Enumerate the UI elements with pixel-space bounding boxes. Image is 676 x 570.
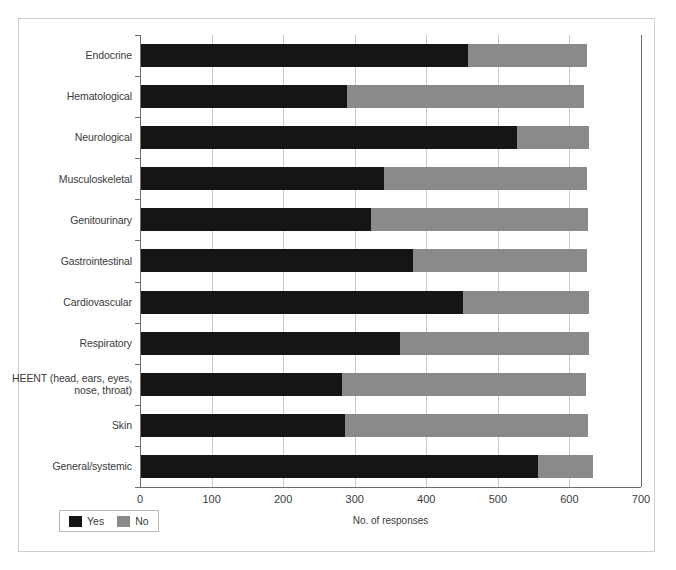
chart-row: Endocrine (140, 35, 641, 76)
bar-segment-yes[interactable] (140, 249, 413, 272)
bar-segment-no[interactable] (463, 291, 590, 314)
chart-row: Respiratory (140, 323, 641, 364)
x-tick-label-0: 0 (137, 493, 143, 505)
chart-row: Hematological (140, 76, 641, 117)
chart-row: General/systemic (140, 446, 641, 487)
legend-item-no[interactable]: No (117, 515, 148, 527)
y-axis-line (140, 35, 141, 487)
stacked-bar[interactable] (140, 85, 584, 108)
bar-segment-no[interactable] (400, 332, 590, 355)
stacked-bar[interactable] (140, 291, 589, 314)
category-label: Musculoskeletal (0, 158, 132, 199)
bar-segment-no[interactable] (413, 249, 587, 272)
bar-segment-no[interactable] (347, 85, 585, 108)
x-tick-label-300: 300 (346, 493, 364, 505)
bar-segment-no[interactable] (468, 44, 587, 67)
x-tick-label-200: 200 (274, 493, 292, 505)
bar-segment-yes[interactable] (140, 126, 517, 149)
chart-row: Skin (140, 405, 641, 446)
y-axis-tick (135, 487, 140, 488)
legend-swatch-no-icon (117, 516, 130, 527)
stacked-bar[interactable] (140, 373, 586, 396)
stacked-bar[interactable] (140, 126, 589, 149)
bar-segment-yes[interactable] (140, 373, 342, 396)
chart-row: Genitourinary (140, 199, 641, 240)
stacked-bar[interactable] (140, 208, 588, 231)
category-label: Hematological (0, 76, 132, 117)
bar-segment-yes[interactable] (140, 332, 400, 355)
chart-figure: 0 100 200 300 400 500 600 700 No. of res… (18, 18, 655, 552)
legend-swatch-yes-icon (69, 516, 82, 527)
category-label: General/systemic (0, 446, 132, 487)
x-tick-label-500: 500 (489, 493, 507, 505)
chart-legend: Yes No (59, 510, 159, 532)
category-label: Respiratory (0, 323, 132, 364)
chart-row: Gastrointestinal (140, 240, 641, 281)
bar-segment-yes[interactable] (140, 414, 345, 437)
category-label: Endocrine (0, 35, 132, 76)
category-label: Cardiovascular (0, 282, 132, 323)
bar-segment-no[interactable] (342, 373, 586, 396)
chart-row: Cardiovascular (140, 282, 641, 323)
legend-item-yes[interactable]: Yes (69, 515, 104, 527)
x-axis-line (140, 487, 641, 488)
stacked-bar[interactable] (140, 249, 587, 272)
category-label: HEENT (head, ears, eyes, nose, throat) (0, 364, 132, 405)
legend-label-no: No (135, 515, 148, 527)
chart-row: Neurological (140, 117, 641, 158)
bar-segment-yes[interactable] (140, 291, 463, 314)
chart-row: Musculoskeletal (140, 158, 641, 199)
category-label: Genitourinary (0, 199, 132, 240)
x-tick-label-400: 400 (417, 493, 435, 505)
bar-segment-yes[interactable] (140, 85, 347, 108)
bar-segment-no[interactable] (345, 414, 588, 437)
category-label: Skin (0, 405, 132, 446)
x-tick-label-100: 100 (202, 493, 220, 505)
x-tick-label-700: 700 (632, 493, 650, 505)
x-axis-title: No. of responses (140, 515, 641, 526)
bar-segment-no[interactable] (517, 126, 589, 149)
plot-area: EndocrineHematologicalNeurologicalMuscul… (140, 35, 641, 487)
legend-label-yes: Yes (87, 515, 104, 527)
bar-segment-no[interactable] (371, 208, 588, 231)
bar-segment-yes[interactable] (140, 208, 371, 231)
stacked-bar[interactable] (140, 414, 588, 437)
bar-segment-yes[interactable] (140, 167, 384, 190)
bar-segment-yes[interactable] (140, 455, 538, 478)
stacked-bar[interactable] (140, 455, 593, 478)
bar-segment-yes[interactable] (140, 44, 468, 67)
stacked-bar[interactable] (140, 167, 587, 190)
bar-segment-no[interactable] (538, 455, 593, 478)
gridline-700 (641, 35, 642, 487)
chart-row: HEENT (head, ears, eyes, nose, throat) (140, 364, 641, 405)
stacked-bar[interactable] (140, 44, 587, 67)
stacked-bar[interactable] (140, 332, 589, 355)
x-tick-label-600: 600 (560, 493, 578, 505)
category-label: Gastrointestinal (0, 240, 132, 281)
category-label: Neurological (0, 117, 132, 158)
bar-segment-no[interactable] (384, 167, 587, 190)
